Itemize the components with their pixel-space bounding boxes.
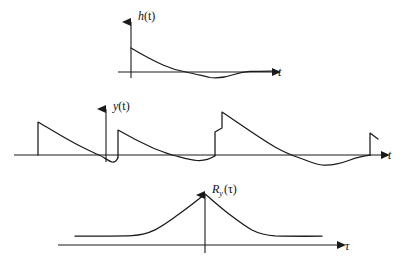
impulse-response-panel: h(t) t — [118, 9, 282, 79]
signal-processing-figure: h(t) t y(t) t — [0, 0, 405, 273]
autocorrelation-y-label: Ry(τ) — [211, 182, 237, 198]
autocorrelation-curve — [75, 194, 322, 236]
output-signal-pulse-3 — [215, 112, 370, 165]
impulse-response-y-label: h(t) — [138, 9, 155, 23]
figure-canvas: h(t) t y(t) t — [0, 0, 405, 273]
impulse-response-x-label: t — [278, 65, 282, 79]
output-signal-y-label: y(t) — [112, 99, 130, 113]
output-signal-pulse-2 — [118, 130, 215, 161]
output-signal-x-label: t — [388, 148, 392, 162]
output-signal-panel: y(t) t — [14, 99, 392, 165]
output-signal-y-label-args: (t) — [118, 99, 129, 113]
autocorrelation-x-label: τ — [345, 239, 350, 253]
autocorrelation-y-label-subscript: y — [218, 189, 223, 198]
impulse-response-y-label-args: (t) — [144, 9, 155, 23]
autocorrelation-y-label-args: (τ) — [224, 182, 237, 196]
autocorrelation-panel: Ry(τ) τ — [58, 182, 350, 253]
output-signal-pulse-4 — [370, 133, 378, 155]
impulse-response-curve — [131, 48, 272, 78]
